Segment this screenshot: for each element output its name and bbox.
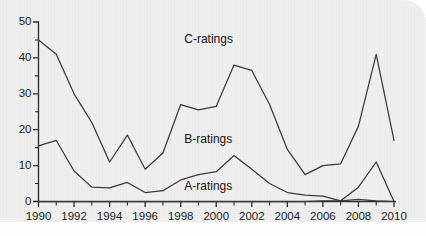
x-axis-tick-label: 1992 — [59, 210, 89, 222]
x-axis-tick-label: 2008 — [343, 210, 373, 222]
x-axis-tick-label: 2006 — [308, 210, 338, 222]
x-axis-tick-label: 1994 — [95, 210, 125, 222]
series-annotation-c-ratings: C-ratings — [184, 32, 233, 46]
x-axis-tick-label: 2002 — [237, 210, 267, 222]
y-axis-tick-label: 40 — [2, 51, 32, 63]
series-annotation-b-ratings: B-ratings — [184, 132, 232, 146]
series-line-c-ratings — [39, 40, 395, 175]
x-axis-tick-label: 2004 — [272, 210, 302, 222]
x-axis-tick-label: 1998 — [166, 210, 196, 222]
y-axis-tick-label: 0 — [2, 195, 32, 207]
series-annotation-a-ratings: A-ratings — [184, 179, 232, 193]
series-line-a-ratings — [39, 199, 395, 201]
x-axis-tick-label: 2010 — [379, 210, 409, 222]
x-axis-tick-label: 1996 — [130, 210, 160, 222]
y-axis-tick-label: 10 — [2, 159, 32, 171]
y-axis-tick-label: 50 — [2, 15, 32, 27]
y-axis-tick-label: 30 — [2, 87, 32, 99]
x-axis-tick-label: 1990 — [24, 210, 54, 222]
chart-figure: 0102030405019901992199419961998200020022… — [0, 0, 426, 236]
x-axis-tick-label: 2000 — [201, 210, 231, 222]
y-axis-tick-label: 20 — [2, 123, 32, 135]
